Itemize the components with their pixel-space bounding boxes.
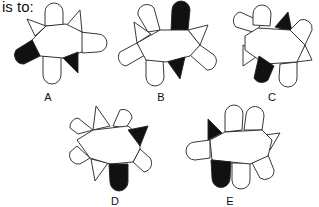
figures-canvas — [0, 0, 319, 207]
option-label-b: B — [151, 91, 171, 103]
triangle-top — [93, 106, 110, 130]
petal-bottom — [232, 163, 250, 189]
petal-top-1 — [225, 105, 243, 132]
petal-bottom-dark — [109, 164, 128, 191]
petal-right — [80, 32, 107, 53]
petal-top-dark — [171, 1, 190, 30]
figure-a[interactable] — [14, 3, 107, 84]
option-label-e: E — [220, 195, 240, 207]
figure-e[interactable] — [186, 105, 280, 189]
option-label-a: A — [38, 91, 58, 103]
petal-bottom — [279, 62, 297, 87]
figure-d[interactable] — [69, 106, 151, 191]
petal-top — [253, 5, 271, 26]
petal-top-right — [113, 109, 132, 128]
option-label-c: C — [262, 91, 282, 103]
figure-c[interactable] — [233, 5, 312, 87]
petal-top — [45, 3, 63, 26]
petal-left — [186, 140, 210, 160]
petal-bottom-dark — [211, 160, 231, 188]
petal-top-2 — [244, 106, 264, 130]
figure-b[interactable] — [118, 1, 216, 86]
option-label-d: D — [105, 195, 125, 207]
petal-left — [70, 118, 93, 134]
petal-bottom — [43, 56, 61, 84]
petal-bottom — [146, 60, 164, 86]
